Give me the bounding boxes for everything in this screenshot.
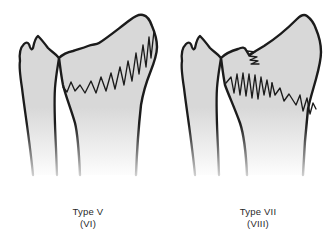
- fibula-shape: [182, 36, 221, 175]
- caption-type-vii: Type VII (VIII): [198, 206, 318, 229]
- fracture-classification-figure: Type V (VI) Type VII (VIII): [0, 0, 330, 241]
- tibia-shape: [221, 15, 321, 175]
- caption-type-v-line1: Type V: [28, 206, 148, 218]
- caption-type-vii-line1: Type VII: [198, 206, 318, 218]
- type-v-bone-illustration: [0, 3, 165, 203]
- type-vii-bone-illustration: [163, 3, 328, 203]
- caption-type-v-line2: (VI): [28, 218, 148, 230]
- caption-type-vii-line2: (VIII): [198, 218, 318, 230]
- caption-type-v: Type V (VI): [28, 206, 148, 229]
- fibula-shape: [20, 36, 59, 175]
